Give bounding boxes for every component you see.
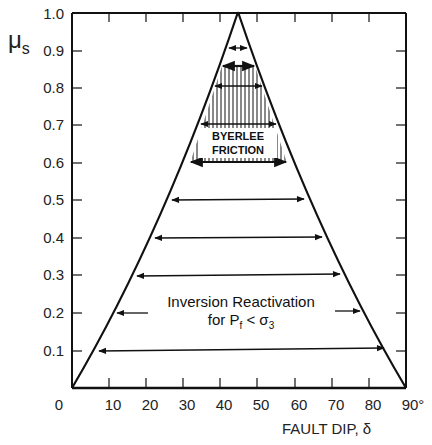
y-tick-label: 0.9	[30, 42, 64, 59]
y-tick-label: 0.6	[30, 154, 64, 171]
y-tick-label: 0.2	[30, 304, 64, 321]
byerlee-friction-label: BYERLEE FRICTION	[199, 128, 277, 158]
y-tick-label: 0.8	[30, 79, 64, 96]
y-tick-label: 0.5	[30, 191, 64, 208]
x-tick-label: 40	[204, 396, 244, 413]
y-axis-title: μs	[8, 26, 30, 58]
y-tick-label: 0.4	[30, 229, 64, 246]
x-tick-label: 80	[353, 396, 393, 413]
y-tick-label: 0.7	[30, 116, 64, 133]
y-tick-label: 1.0	[30, 5, 64, 22]
x-tick-label: 90°	[393, 396, 432, 413]
x-tick-label: 0	[39, 396, 79, 413]
x-tick-label: 10	[93, 396, 133, 413]
x-tick-label: 30	[167, 396, 207, 413]
inversion-reactivation-label: Inversion Reactivation for Pf < σ3	[150, 293, 332, 335]
y-tick-label: 0.1	[30, 342, 64, 359]
x-tick-label: 20	[130, 396, 170, 413]
x-tick-label: 60	[279, 396, 319, 413]
x-axis-title: FAULT DIP, δ	[282, 420, 371, 437]
x-tick-label: 70	[316, 396, 356, 413]
x-tick-label: 50	[241, 396, 281, 413]
diagram-canvas	[0, 0, 432, 445]
y-tick-label: 0.3	[30, 266, 64, 283]
